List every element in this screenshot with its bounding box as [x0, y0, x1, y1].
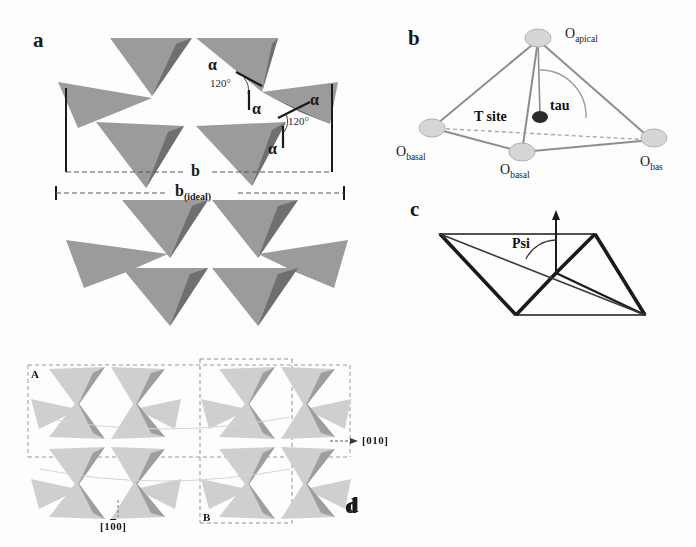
alpha-label-1: α: [208, 57, 217, 73]
o-basal-left-subscript: basal: [406, 152, 426, 162]
direction-100-label: [100]: [100, 521, 126, 532]
o-basal-left-symbol: O: [396, 144, 406, 159]
direction-100-open: [1: [100, 520, 110, 532]
panel-d-graphic: [0, 345, 400, 547]
panel-d: d: [0, 345, 400, 547]
angle-120-label-2: 120°: [288, 116, 309, 127]
o-basal-bottom-symbol: O: [500, 162, 510, 177]
o-apical-label: Oapical: [565, 27, 598, 44]
alpha-label-4: α: [268, 141, 277, 157]
panel-d-letter-main: d: [347, 493, 359, 518]
alpha-label-2: α: [252, 101, 261, 117]
alpha-label-3: α: [310, 92, 319, 108]
unit-cell-corner-b-label: B: [203, 512, 210, 523]
panel-c-graphic: [390, 185, 696, 345]
t-site-label: T site: [474, 110, 507, 124]
o-basal-left-label: Obasal: [396, 145, 426, 162]
dimension-b-ideal-subscript: (ideal): [184, 191, 211, 202]
dimension-b-ideal-label: b(ideal): [175, 183, 211, 202]
o-apical-subscript: apical: [575, 34, 598, 44]
o-basal-bottom-label: Obasal: [500, 163, 530, 180]
figure-root: a: [0, 0, 696, 547]
unit-cell-corner-a-label: A: [31, 369, 39, 380]
psi-label: Psi: [512, 237, 530, 251]
panel-c: c Psi: [390, 185, 696, 345]
direction-100-close: 0]: [116, 520, 126, 532]
angle-120-label-1: 120°: [210, 78, 231, 89]
panel-b: b Oapical T site tau: [390, 0, 696, 185]
panel-a: a: [0, 0, 390, 340]
o-apical-symbol: O: [565, 26, 575, 41]
o-basal-right-subscript: bas: [650, 162, 663, 172]
dimension-b-label: b: [191, 163, 200, 179]
o-basal-right-symbol: O: [640, 154, 650, 169]
o-basal-right-label: Obas: [640, 155, 663, 172]
o-basal-bottom-subscript: basal: [510, 170, 530, 180]
direction-010-label: [010]: [362, 435, 388, 446]
dimension-b-ideal-base: b: [175, 182, 184, 199]
tau-label: tau: [550, 99, 569, 113]
